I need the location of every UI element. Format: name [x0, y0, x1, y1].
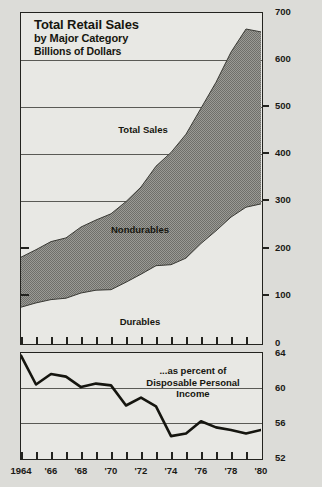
pct-note-line-2: Disposable Personal	[146, 377, 239, 388]
xtick-top-1979	[246, 337, 248, 344]
xtick-bottom-1978	[231, 452, 233, 459]
ytick-mark-300	[263, 199, 269, 201]
xtick-bottom-1965	[36, 452, 38, 459]
xtick-top-1967	[66, 337, 68, 344]
ytick-inner-100	[21, 294, 29, 296]
ylabel-200: 200	[275, 243, 291, 253]
retail-sales-figure: Total Retail Sales by Major Category Bil…	[0, 0, 322, 487]
top-chart-plot-area	[21, 13, 262, 344]
top-chart-panel	[20, 12, 263, 345]
nondurables-band	[21, 29, 261, 307]
title-line-2: by Major Category	[34, 32, 139, 45]
xtick-top-1971	[126, 337, 128, 344]
pct-note-line-3: Income	[176, 388, 209, 399]
xlabel-1980: '80	[243, 465, 279, 476]
pct-note-line-1: ...as percent of	[159, 365, 226, 376]
ytick-mark-500	[263, 105, 269, 107]
xtick-bottom-1974	[171, 452, 173, 459]
label-durables: Durables	[105, 316, 175, 327]
ytick-mark-100	[263, 294, 269, 296]
xtick-top-1972	[141, 337, 143, 344]
page-title: Total Retail Sales by Major Category Bil…	[34, 17, 139, 58]
ylabel-64: 64	[275, 348, 286, 358]
ylabel-52: 52	[275, 453, 286, 463]
label-percent-of-dpi: ...as percent of Disposable Personal Inc…	[128, 365, 258, 400]
ylabel-700: 700	[275, 7, 291, 17]
xtick-top-1970	[111, 337, 113, 344]
xtick-top-1965	[36, 337, 38, 344]
xtick-bottom-1979	[246, 452, 248, 459]
xtick-bottom-1969	[96, 452, 98, 459]
title-line-1: Total Retail Sales	[34, 17, 139, 32]
xtick-bottom-1977	[216, 452, 218, 459]
xtick-top-1978	[231, 337, 233, 344]
xtick-bottom-1972	[141, 452, 143, 459]
xtick-bottom-1970	[111, 452, 113, 459]
xtick-top-1969	[96, 337, 98, 344]
xtick-bottom-1975	[186, 452, 188, 459]
label-total-sales: Total Sales	[108, 124, 178, 135]
ytick-mark-200	[263, 247, 269, 249]
xtick-bottom-1964	[21, 452, 23, 459]
ytick-mark-400	[263, 152, 269, 154]
xtick-bottom-1968	[81, 452, 83, 459]
ylabel-56: 56	[275, 418, 286, 428]
ylabel-400: 400	[275, 148, 291, 158]
xtick-bottom-1971	[126, 452, 128, 459]
xtick-bottom-1973	[156, 452, 158, 459]
xtick-top-1968	[81, 337, 83, 344]
stacked-area-series	[21, 13, 261, 343]
ylabel-300: 300	[275, 195, 291, 205]
xtick-top-1964	[21, 337, 23, 344]
title-line-3: Billions of Dollars	[34, 45, 139, 58]
xtick-top-1966	[51, 337, 53, 344]
xtick-bottom-1976	[201, 452, 203, 459]
xtick-top-1976	[201, 337, 203, 344]
xtick-top-1974	[171, 337, 173, 344]
label-nondurables: Nondurables	[100, 224, 180, 235]
ylabel-60: 60	[275, 383, 286, 393]
xtick-bottom-1966	[51, 452, 53, 459]
ylabel-600: 600	[275, 54, 291, 64]
ytick-inner-200	[21, 247, 29, 249]
ylabel-100: 100	[275, 290, 291, 300]
xtick-bottom-1967	[66, 452, 68, 459]
xtick-top-1973	[156, 337, 158, 344]
xtick-top-1975	[186, 337, 188, 344]
xtick-top-1977	[216, 337, 218, 344]
ylabel-500: 500	[275, 101, 291, 111]
